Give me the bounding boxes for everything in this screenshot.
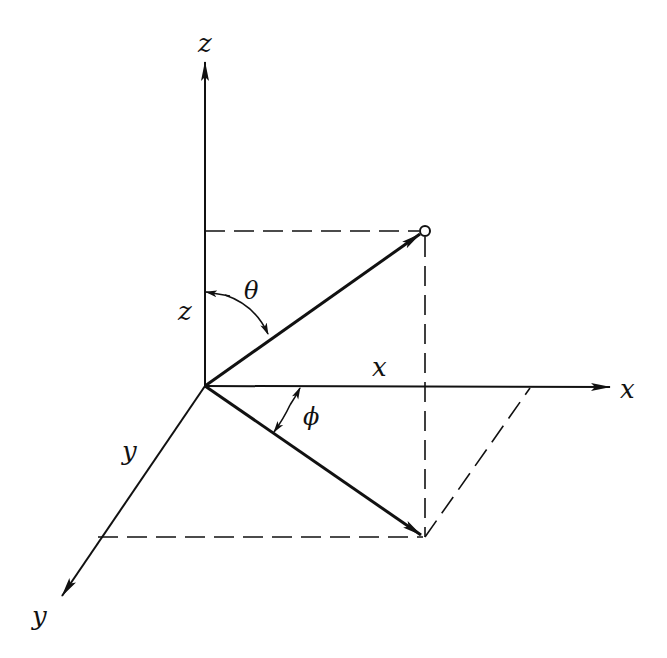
x-component-label: x <box>372 352 387 382</box>
dashed-x-projection <box>425 388 530 537</box>
phi-arc <box>290 388 300 405</box>
theta-label: θ <box>244 277 259 305</box>
position-vector <box>205 234 420 386</box>
phi-arc-end <box>274 405 290 432</box>
y-axis <box>62 386 205 596</box>
y-component-label: y <box>121 436 137 466</box>
point-marker <box>420 226 430 236</box>
theta-arc-start <box>206 292 230 296</box>
phi-label: ϕ <box>303 403 319 431</box>
z-component-label: z <box>177 296 192 326</box>
z-axis-label: z <box>197 28 212 58</box>
x-axis-label: x <box>620 374 635 404</box>
y-axis-label: y <box>31 601 47 631</box>
x-axis <box>205 386 610 387</box>
spherical-coordinates-diagram: z x y z x y θ ϕ <box>0 0 667 658</box>
